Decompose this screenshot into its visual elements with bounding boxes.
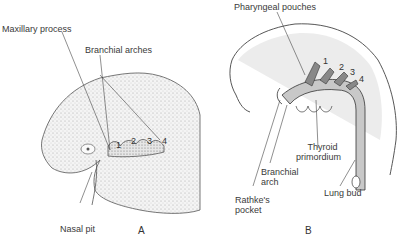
- label-branchial-arches: Branchial arches: [85, 45, 152, 55]
- pouch-number-3: 3: [350, 67, 355, 77]
- arch-number-2: 2: [131, 136, 136, 146]
- label-rathkes-line2: pocket: [235, 205, 270, 215]
- caption-a: A: [138, 225, 145, 236]
- arch-number-3: 3: [147, 136, 152, 146]
- label-nasal-pit: Nasal pit: [60, 224, 95, 234]
- label-branchial-arch-line2: arch: [261, 177, 299, 187]
- arch-number-1: 1: [116, 140, 121, 150]
- embryo-diagram: [0, 0, 405, 241]
- embryo-b-body: [230, 12, 396, 190]
- label-thyroid-primordium: Thyroid primordium: [296, 142, 341, 162]
- pouch-number-4: 4: [359, 74, 364, 84]
- label-rathkes-pocket: Rathke's pocket: [235, 195, 270, 215]
- label-branchial-arch-line1: Branchial: [261, 167, 299, 177]
- pouch-number-1: 1: [323, 56, 328, 66]
- label-maxillary-process: Maxillary process: [2, 24, 72, 34]
- label-thyroid-line2: primordium: [296, 152, 341, 162]
- label-thyroid-line1: Thyroid: [304, 142, 341, 152]
- label-branchial-arch: Branchial arch: [261, 167, 299, 187]
- label-pharyngeal-pouches: Pharyngeal pouches: [234, 2, 316, 12]
- caption-b: B: [305, 225, 312, 236]
- pouch-number-2: 2: [339, 62, 344, 72]
- arch-number-4: 4: [162, 136, 167, 146]
- label-rathkes-line1: Rathke's: [235, 195, 270, 205]
- label-lung-bud: Lung bud: [324, 188, 362, 198]
